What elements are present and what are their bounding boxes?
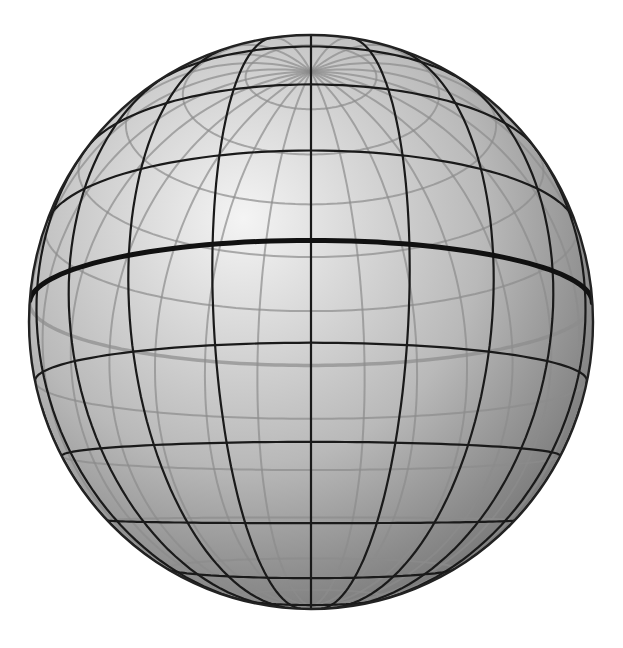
sphere-diagram xyxy=(0,0,623,648)
